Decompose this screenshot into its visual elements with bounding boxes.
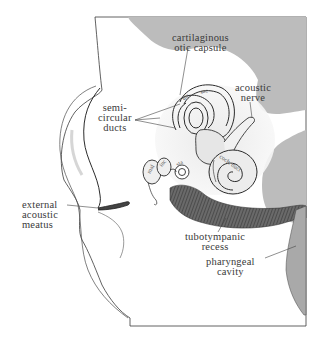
label-tubotympanic-recess: tubotympanic recess — [185, 232, 245, 252]
diagram-drawing — [0, 0, 318, 344]
label-semicircular-ducts: semi- circular ducts — [98, 103, 132, 133]
label-external-acoustic-meatus: external acoustic meatus — [22, 200, 58, 230]
label-pharyngeal-cavity: pharyngeal cavity — [206, 257, 255, 277]
cochlear-duct-drawing — [209, 150, 257, 194]
label-cartilaginous-otic-capsule: cartilaginous otic capsule — [172, 33, 229, 53]
inner-ear-diagram: cartilaginous otic capsule acoustic nerv… — [0, 0, 318, 344]
label-acoustic-nerve: acoustic nerve — [235, 83, 271, 103]
